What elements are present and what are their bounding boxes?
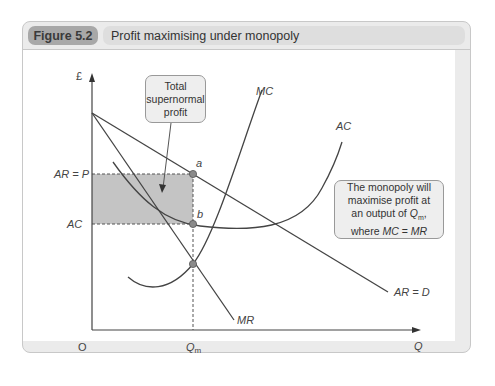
ac-label: AC [335, 120, 351, 132]
note-line4: where MC = MR [335, 225, 443, 238]
profit-callout-line3: profit [146, 106, 205, 119]
x-axis-arrow [412, 327, 421, 333]
point-mc-mr [189, 260, 196, 267]
point-b [189, 220, 196, 227]
profit-callout-line1: Total [146, 80, 205, 93]
qm-label: Qm [186, 341, 202, 355]
note-line2: maximise profit at [335, 194, 443, 207]
profit-callout-line2: supernormal [146, 93, 205, 106]
monopoly-note-callout: The monopoly will maximise profit at an … [334, 180, 444, 239]
profit-callout: Total supernormal profit [145, 75, 206, 123]
note-line3: an output of Qm, [335, 207, 443, 224]
point-a-label: a [196, 157, 202, 169]
supernormal-profit-area [92, 174, 193, 224]
note-line1: The monopoly will [335, 181, 443, 194]
ac-value-label: AC [66, 218, 82, 230]
x-axis-label: Q [414, 340, 423, 352]
origin-label: O [78, 341, 87, 353]
y-axis-arrow [89, 73, 95, 82]
mr-label: MR [237, 314, 254, 326]
mc-label: MC [256, 85, 273, 97]
point-a [189, 170, 196, 177]
ar-d-label: AR = D [393, 286, 430, 298]
y-axis-label: £ [76, 70, 82, 82]
price-label: AR = P [53, 168, 90, 180]
point-b-label: b [197, 208, 203, 220]
